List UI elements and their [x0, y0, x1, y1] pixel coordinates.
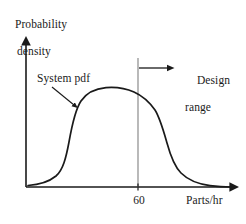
x-axis-title: Parts/hr	[186, 194, 223, 208]
design-range-label-line1: Design	[197, 74, 230, 86]
system-pdf-label: System pdf	[37, 72, 90, 86]
y-axis-title-line2: density	[3, 45, 67, 59]
design-range-label-line2: range	[185, 101, 230, 115]
design-range-label: Design range	[185, 60, 230, 141]
probability-density-figure: Probability density System pdf Design ra…	[0, 0, 246, 224]
x-tick-label-60: 60	[129, 194, 149, 208]
y-axis-title-line1: Probability	[15, 18, 67, 30]
system-pdf-leader-arrow	[52, 87, 74, 105]
